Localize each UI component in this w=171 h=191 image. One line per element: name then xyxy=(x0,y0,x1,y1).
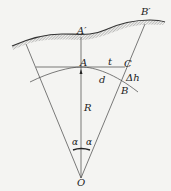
radius-line-left xyxy=(26,44,81,178)
label-o: O xyxy=(77,178,85,188)
earth-curvature-diagram: A′ B′ A t C d Δh B R α α O xyxy=(0,0,171,191)
angle-arc xyxy=(73,149,90,151)
label-c: C xyxy=(124,59,132,69)
label-a: A xyxy=(80,58,87,68)
point-a-marker xyxy=(80,69,83,74)
ground-hatching xyxy=(12,20,165,50)
label-alpha-right: α xyxy=(86,138,92,147)
label-t: t xyxy=(108,57,112,67)
label-b: B xyxy=(121,86,128,96)
label-b-prime: B′ xyxy=(141,7,151,17)
label-alpha-left: α xyxy=(72,138,78,147)
radius-line-right xyxy=(81,24,145,178)
label-d: d xyxy=(99,75,105,85)
label-r: R xyxy=(84,103,92,113)
label-delta-h: Δh xyxy=(126,73,140,83)
label-a-prime: A′ xyxy=(77,26,87,36)
